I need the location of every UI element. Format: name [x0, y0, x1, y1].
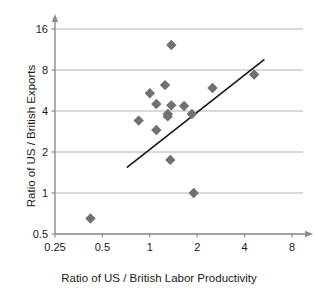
data-point: [145, 88, 155, 98]
y-tick-label: 0.5: [10, 229, 48, 240]
data-point: [188, 188, 198, 198]
axis-lines: [52, 14, 314, 238]
data-point: [151, 125, 161, 135]
data-point: [166, 40, 176, 50]
x-tick-label: 4: [242, 242, 248, 253]
x-tick-label: 0.5: [95, 242, 110, 253]
data-point: [179, 101, 189, 111]
data-point: [165, 155, 175, 165]
y-axis-title: Ratio of US / British Exports: [25, 46, 37, 226]
data-point: [133, 115, 143, 125]
x-tick-label: 2: [194, 242, 200, 253]
y-tick-label: 16: [10, 24, 48, 35]
x-axis-title: Ratio of US / British Labor Productivity: [0, 272, 318, 284]
x-tick-label: 1: [147, 242, 153, 253]
data-point: [207, 83, 217, 93]
gridlines: [55, 29, 303, 234]
data-point: [151, 99, 161, 109]
data-point: [85, 213, 95, 223]
x-tick-label: 8: [289, 242, 295, 253]
data-point: [187, 109, 197, 119]
x-tick-label: 0.25: [44, 242, 65, 253]
scatter-chart: 0.5124816 0.250.51248 Ratio of US / Brit…: [0, 0, 318, 290]
data-point: [160, 80, 170, 90]
